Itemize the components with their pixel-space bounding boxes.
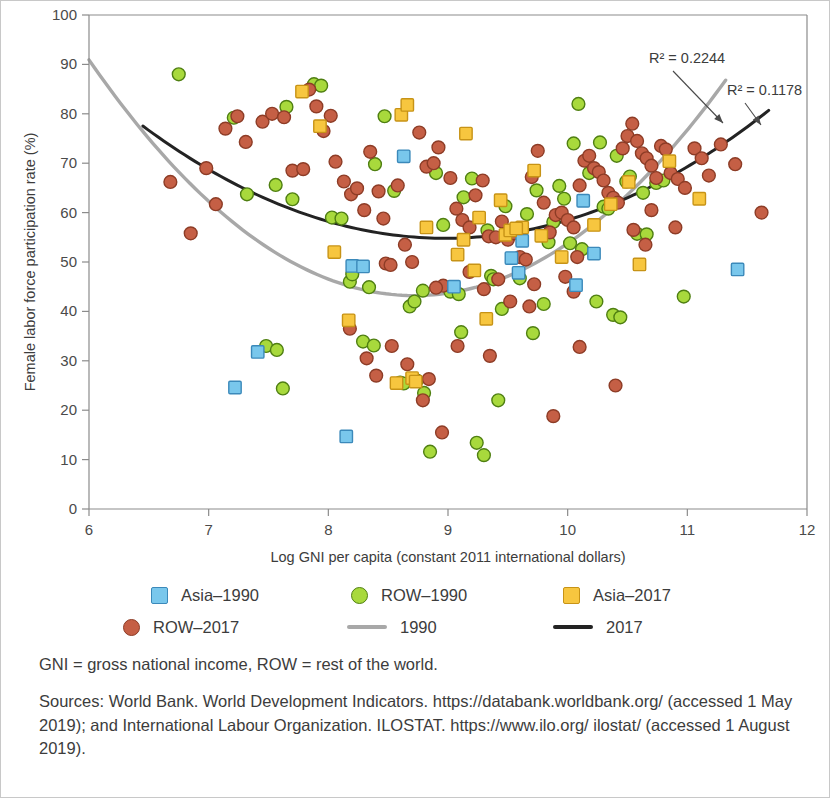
legend-row-1: Asia–1990 ROW–1990 Asia–2017 [151, 579, 771, 611]
data-point [570, 279, 582, 291]
data-point [360, 352, 373, 365]
y-tick-label: 0 [69, 500, 77, 517]
series-row-1990 [172, 68, 690, 462]
data-point [468, 264, 480, 276]
data-point [270, 344, 283, 357]
data-point [457, 191, 470, 204]
data-point [409, 375, 421, 387]
legend-item-row-1990[interactable]: ROW–1990 [351, 586, 563, 605]
data-point [209, 198, 222, 211]
y-tick-label: 40 [60, 302, 77, 319]
data-point [527, 327, 540, 340]
data-point [528, 278, 541, 291]
data-point [553, 180, 566, 193]
y-tick-label: 60 [60, 204, 77, 221]
data-point [357, 260, 369, 272]
data-point [335, 212, 348, 225]
scatter-chart: 01020304050607080901006789101112Log GNI … [1, 1, 830, 571]
data-point [384, 259, 397, 272]
legend-item-line-1990[interactable]: 1990 [347, 618, 559, 637]
data-point [626, 117, 639, 130]
data-point [408, 295, 421, 308]
data-point [519, 253, 532, 266]
data-point [637, 186, 650, 199]
data-point [372, 185, 385, 198]
data-point [337, 175, 350, 188]
y-tick-label: 10 [60, 451, 77, 468]
data-point [669, 221, 682, 234]
data-point [590, 295, 603, 308]
data-point [567, 221, 580, 234]
data-point [645, 204, 658, 217]
data-point [567, 137, 580, 150]
data-point [427, 157, 440, 170]
legend-swatch-line-2017 [553, 625, 593, 629]
y-tick-label: 30 [60, 352, 77, 369]
data-point [424, 445, 437, 458]
data-point [406, 256, 419, 269]
data-point [577, 195, 589, 207]
r-squared-label: R² = 0.2244 [649, 50, 725, 66]
legend-item-asia-1990[interactable]: Asia–1990 [151, 586, 351, 605]
data-point [444, 172, 457, 185]
legend-label-row-1990: ROW–1990 [381, 586, 467, 605]
data-point [605, 198, 617, 210]
data-point [695, 152, 708, 165]
data-point [714, 138, 727, 151]
data-point [572, 98, 585, 111]
y-tick-label: 50 [60, 253, 77, 270]
data-point [505, 252, 517, 264]
data-point [510, 222, 522, 234]
data-point [571, 251, 584, 264]
data-point [422, 373, 435, 386]
data-point [391, 179, 404, 192]
data-point [480, 313, 492, 325]
data-point [616, 142, 629, 155]
data-point [588, 219, 600, 231]
y-tick-label: 80 [60, 105, 77, 122]
data-point [340, 430, 352, 442]
data-point [555, 251, 567, 263]
data-point [573, 179, 586, 192]
data-point [650, 172, 663, 185]
data-point [659, 143, 672, 156]
legend-item-asia-2017[interactable]: Asia–2017 [563, 586, 743, 605]
data-point [677, 290, 690, 303]
figure-container: 01020304050607080901006789101112Log GNI … [0, 0, 830, 798]
note-sources: Sources: World Bank. World Development I… [39, 690, 809, 760]
legend-item-row-2017[interactable]: ROW–2017 [123, 618, 323, 637]
data-point [564, 237, 577, 250]
data-point [390, 377, 402, 389]
data-point [296, 85, 308, 97]
x-tick-label: 12 [799, 521, 816, 538]
data-point [241, 188, 254, 201]
data-point [329, 155, 342, 168]
data-point [278, 111, 291, 124]
data-point [378, 110, 391, 123]
data-point [460, 127, 472, 139]
data-point [451, 248, 463, 260]
data-point [483, 349, 496, 362]
data-point [184, 227, 197, 240]
data-point [478, 449, 491, 462]
data-point [231, 110, 244, 123]
data-point [286, 193, 299, 206]
data-point [609, 379, 622, 392]
data-point [416, 284, 429, 297]
data-point [416, 394, 429, 407]
data-point [614, 311, 627, 324]
data-point [266, 107, 279, 120]
data-point [364, 145, 377, 158]
legend-item-line-2017[interactable]: 2017 [553, 618, 733, 637]
data-point [229, 381, 241, 393]
data-point [437, 219, 450, 232]
data-point [631, 135, 644, 148]
data-point [623, 176, 635, 188]
data-point [367, 339, 380, 352]
data-point [512, 267, 524, 279]
data-point [172, 68, 185, 81]
figure-notes: GNI = gross national income, ROW = rest … [39, 653, 809, 775]
data-point [399, 238, 412, 251]
data-point [385, 340, 398, 353]
data-point [679, 182, 692, 195]
